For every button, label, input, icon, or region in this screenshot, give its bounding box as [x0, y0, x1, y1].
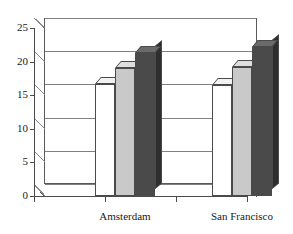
gridline-25	[45, 18, 256, 19]
bar-front-face	[115, 68, 135, 196]
gridline-slant-0	[34, 184, 45, 196]
x-axis-line	[34, 196, 247, 197]
bar-front-face	[135, 53, 155, 196]
y-axis-line	[34, 28, 35, 197]
x-tick-mark-1	[105, 196, 106, 202]
bar-side-face	[155, 40, 162, 189]
gridline-slant-15	[34, 84, 45, 95]
bar-san-francisco-series-2	[232, 67, 252, 196]
y-tick-label-20: 20	[2, 56, 28, 67]
x-tick-mark-2	[176, 196, 177, 202]
gridline-slant-5	[34, 151, 45, 163]
x-tick-mark-3	[247, 196, 248, 202]
x-tick-mark-0	[34, 196, 35, 202]
bar-front-face	[232, 67, 252, 196]
bar-amsterdam-series-1	[95, 84, 115, 196]
x-axis-label-amsterdam: Amsterdam	[65, 210, 185, 222]
bar-amsterdam-series-3	[135, 53, 155, 196]
bar-san-francisco-series-1	[212, 85, 232, 196]
y-tick-label-0: 0	[2, 190, 28, 201]
bar-front-face	[95, 84, 115, 196]
gridline-slant-10	[34, 118, 45, 129]
gridline-slant-25	[34, 18, 45, 28]
y-tick-label-25: 25	[2, 22, 28, 33]
y-tick-label-15: 15	[2, 89, 28, 100]
bar-front-face	[252, 47, 272, 196]
y-tick-label-10: 10	[2, 123, 28, 134]
bar-san-francisco-series-3	[252, 47, 272, 196]
y-tick-label-5: 5	[2, 156, 28, 167]
bar-amsterdam-series-2	[115, 68, 135, 196]
bar-chart: 0510152025 AmsterdamSan Francisco	[0, 0, 293, 234]
gridline-slant-20	[34, 51, 45, 61]
bar-side-face	[272, 34, 279, 189]
bar-front-face	[212, 85, 232, 196]
x-axis-label-san-francisco: San Francisco	[182, 210, 293, 222]
